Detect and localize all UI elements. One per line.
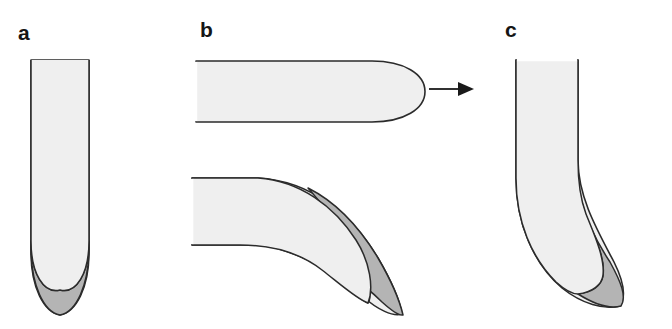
panel-label-a: a — [18, 22, 30, 43]
panel-b-upper-tube-body — [196, 61, 425, 122]
panel-label-c: c — [505, 19, 517, 40]
panel-a-inner-lumen — [31, 60, 89, 291]
figure-illustration — [0, 0, 672, 329]
panel-label-b: b — [200, 19, 213, 40]
figure-container: a b c — [0, 0, 672, 329]
panel-a-shape — [31, 60, 89, 315]
panel-b-upper-tube — [196, 61, 425, 122]
